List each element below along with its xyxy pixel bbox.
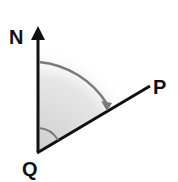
point-q-label: Q [22,158,38,181]
north-arrow-icon [31,26,45,40]
bearing-diagram [0,0,178,182]
north-label: N [9,26,23,49]
point-p-label: P [153,76,166,99]
